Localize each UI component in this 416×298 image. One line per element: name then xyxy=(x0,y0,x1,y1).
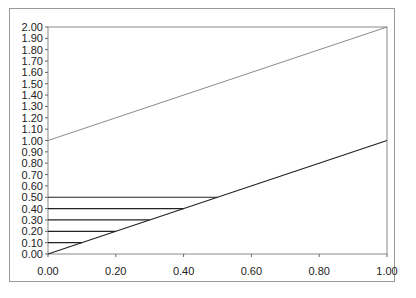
x-tick-label: 0.40 xyxy=(173,265,194,277)
x-tick-label: 0.20 xyxy=(105,265,126,277)
y-tick-label: 1.70 xyxy=(22,55,43,67)
y-tick-label: 1.40 xyxy=(22,89,43,101)
x-tick-label: 1.00 xyxy=(376,265,397,277)
x-tick-label: 0.80 xyxy=(308,265,329,277)
y-tick-label: 0.40 xyxy=(22,203,43,215)
y-tick-label: 0.70 xyxy=(22,169,43,181)
y-tick-label: 0.80 xyxy=(22,157,43,169)
line-chart: 0.000.100.200.300.400.500.600.700.800.90… xyxy=(0,0,416,298)
y-tick-label: 1.10 xyxy=(22,123,43,135)
y-tick-label: 1.00 xyxy=(22,135,43,147)
y-tick-label: 0.30 xyxy=(22,214,43,226)
y-tick-label: 0.90 xyxy=(22,146,43,158)
y-tick-label: 1.50 xyxy=(22,78,43,90)
y-tick-label: 0.00 xyxy=(22,248,43,260)
y-tick-label: 0.10 xyxy=(22,237,43,249)
y-tick-label: 1.80 xyxy=(22,44,43,56)
y-tick-label: 1.20 xyxy=(22,112,43,124)
y-tick-label: 1.60 xyxy=(22,66,43,78)
y-tick-label: 0.20 xyxy=(22,225,43,237)
y-tick-label: 0.60 xyxy=(22,180,43,192)
x-tick-label: 0.60 xyxy=(241,265,262,277)
y-tick-label: 1.90 xyxy=(22,32,43,44)
y-tick-label: 0.50 xyxy=(22,191,43,203)
y-tick-label: 2.00 xyxy=(22,21,43,33)
x-tick-label: 0.00 xyxy=(37,265,58,277)
y-tick-label: 1.30 xyxy=(22,100,43,112)
